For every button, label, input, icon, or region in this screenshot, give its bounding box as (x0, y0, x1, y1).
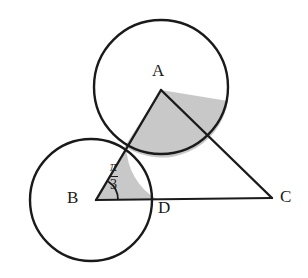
label-B: B (67, 189, 78, 206)
geometry-figure: A B C D π 3 (0, 0, 308, 278)
fraction-numerator: π (109, 160, 118, 175)
label-D: D (158, 199, 170, 216)
geometry-canvas (0, 0, 308, 278)
angle-label-pi-over-3: π 3 (109, 160, 118, 192)
label-C: C (280, 188, 291, 205)
label-A: A (152, 62, 164, 79)
fraction-denominator: 3 (109, 178, 118, 193)
fraction-pi-3: π 3 (109, 160, 118, 192)
